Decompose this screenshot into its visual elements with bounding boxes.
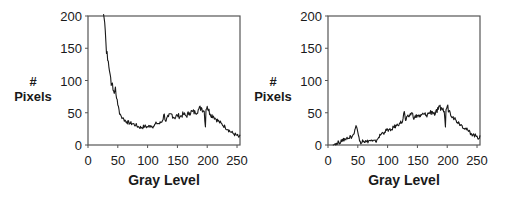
y-axis-label-pixels: Pixels [8, 89, 58, 104]
y-tick-50: 50 [52, 107, 82, 120]
y-axis-label-pixels: Pixels [248, 89, 298, 104]
x-tick-100: 100 [373, 154, 403, 167]
x-tick-100: 100 [133, 154, 163, 167]
y-tick-200: 200 [52, 10, 82, 23]
histogram-panel-left: # Pixels 200 150 100 50 0 0 50 100 150 2… [0, 0, 254, 198]
x-tick-50: 50 [103, 154, 133, 167]
histogram-panel-right: # Pixels 200 150 100 50 0 0 50 100 150 2… [240, 0, 494, 198]
x-tick-150: 150 [403, 154, 433, 167]
y-tick-100: 100 [52, 75, 82, 88]
y-tick-50: 50 [292, 107, 322, 120]
x-axis-label: Gray Level [324, 172, 484, 188]
y-tick-100: 100 [292, 75, 322, 88]
x-tick-50: 50 [343, 154, 373, 167]
y-axis-label: # Pixels [248, 74, 298, 104]
histogram-line [333, 105, 480, 145]
x-tick-200: 200 [433, 154, 463, 167]
y-axis-label-hash: # [248, 74, 298, 89]
y-tick-0: 0 [52, 139, 82, 152]
x-tick-0: 0 [73, 154, 103, 167]
y-tick-0: 0 [292, 139, 322, 152]
y-tick-150: 150 [52, 42, 82, 55]
plot-frame [328, 16, 480, 145]
x-axis-label: Gray Level [84, 172, 244, 188]
y-tick-150: 150 [292, 42, 322, 55]
x-tick-250: 250 [462, 154, 492, 167]
x-tick-150: 150 [163, 154, 193, 167]
x-tick-200: 200 [193, 154, 223, 167]
y-tick-200: 200 [292, 10, 322, 23]
histogram-line [104, 14, 241, 137]
x-tick-0: 0 [313, 154, 343, 167]
y-axis-label: # Pixels [8, 74, 58, 104]
y-axis-label-hash: # [8, 74, 58, 89]
